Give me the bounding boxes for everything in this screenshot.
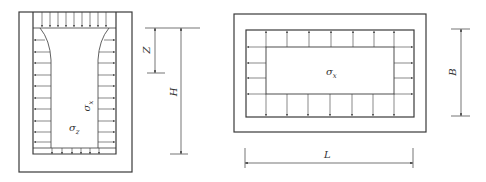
- right-side-envelope: [98, 28, 109, 148]
- label-sigma-x-left: σx: [82, 101, 96, 112]
- label-l: L: [324, 150, 331, 160]
- label-sigma-x-right: σx: [326, 67, 337, 81]
- right-right-arrows: [394, 47, 413, 94]
- label-sigma-z-left: σz: [69, 123, 80, 137]
- left-bottom-arrows: [52, 148, 99, 154]
- right-top-arrows: [266, 31, 394, 47]
- right-left-arrows: [247, 47, 266, 94]
- right-bottom-arrows: [266, 94, 394, 116]
- left-top-arrows: [42, 12, 106, 27]
- left-side-arrows: [34, 40, 51, 142]
- right-side-arrows: [98, 40, 115, 142]
- stress-diagram: [0, 0, 486, 182]
- dimension-z: [145, 28, 200, 73]
- label-z: Z: [142, 47, 152, 54]
- label-b: B: [448, 68, 458, 75]
- label-h: H: [169, 88, 179, 97]
- left-side-envelope: [40, 28, 51, 148]
- right-figure: [234, 14, 470, 168]
